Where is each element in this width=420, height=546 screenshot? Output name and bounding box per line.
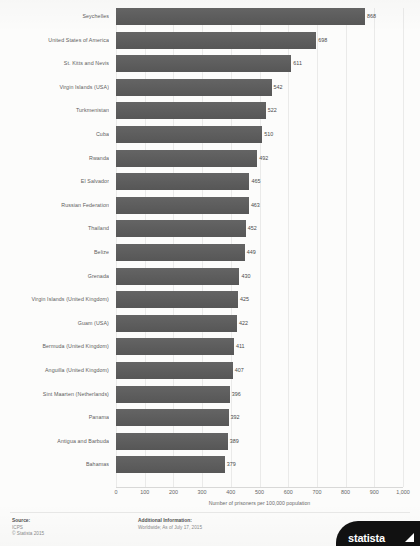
bar-category-label: Virgin Islands (United Kingdom) <box>0 291 109 308</box>
bar-category-label: Thailand <box>0 220 109 237</box>
bar-category-label: Bahamas <box>0 456 109 473</box>
bar-category-label: Belize <box>0 244 109 261</box>
statista-logo[interactable]: statista <box>336 521 420 546</box>
bar[interactable] <box>116 362 233 379</box>
bar-value-label: 379 <box>227 456 236 473</box>
bar[interactable] <box>116 126 262 143</box>
bar-category-label: St. Kitts and Nevis <box>0 55 109 72</box>
bar-value-label: 611 <box>293 55 302 72</box>
bar-category-label: Seychelles <box>0 8 109 25</box>
source-line-copyright: © Statista 2015 <box>12 531 44 536</box>
bar-row: Bermuda (United Kingdom)411 <box>0 338 420 355</box>
bar-row: Cuba510 <box>0 126 420 143</box>
bar-value-label: 449 <box>247 244 256 261</box>
bar-value-label: 425 <box>240 291 249 308</box>
bar-row: Anguilla (United Kingdom)407 <box>0 362 420 379</box>
bar-value-label: 542 <box>274 79 283 96</box>
footer-divider <box>10 512 410 513</box>
additional-information-line: Worldwide; As of July 17, 2015 <box>138 525 202 530</box>
bar[interactable] <box>116 102 266 119</box>
bar[interactable] <box>116 268 239 285</box>
bar-row: Bahamas379 <box>0 456 420 473</box>
bar-row: Turkmenistan522 <box>0 102 420 119</box>
bar-category-label: Turkmenistan <box>0 102 109 119</box>
bar-category-label: Virgin Islands (USA) <box>0 79 109 96</box>
x-axis-tick-label: 100 <box>140 489 149 495</box>
bar[interactable] <box>116 291 238 308</box>
bar-category-label: El Salvador <box>0 173 109 190</box>
bar-row: United States of America698 <box>0 32 420 49</box>
statista-logo-text: statista <box>348 532 385 544</box>
bar-value-label: 422 <box>239 315 248 332</box>
x-axis-tick-label: 700 <box>312 489 321 495</box>
bar[interactable] <box>116 79 272 96</box>
bar-value-label: 868 <box>367 8 376 25</box>
x-axis-tick-label: 800 <box>341 489 350 495</box>
x-axis-tick-label: 400 <box>226 489 235 495</box>
bar-value-label: 411 <box>236 338 245 355</box>
arrow-mark-icon <box>405 533 414 542</box>
bar-category-label: Guam (USA) <box>0 315 109 332</box>
bar-row: Virgin Islands (United Kingdom)425 <box>0 291 420 308</box>
source-line-organization: ICPS <box>12 525 44 530</box>
bar[interactable] <box>116 150 257 167</box>
bar[interactable] <box>116 315 237 332</box>
bar-category-label: Anguilla (United Kingdom) <box>0 362 109 379</box>
bar[interactable] <box>116 173 249 190</box>
bar-row: Thailand452 <box>0 220 420 237</box>
source-block: Source: ICPS © Statista 2015 <box>12 518 44 536</box>
bar[interactable] <box>116 456 225 473</box>
x-axis-tick-label: 500 <box>255 489 264 495</box>
bar-category-label: Bermuda (United Kingdom) <box>0 338 109 355</box>
bar[interactable] <box>116 386 230 403</box>
bar[interactable] <box>116 433 228 450</box>
source-heading: Source: <box>12 518 44 523</box>
bar-value-label: 492 <box>259 150 268 167</box>
bar-value-label: 465 <box>251 173 260 190</box>
bar-row: Guam (USA)422 <box>0 315 420 332</box>
bar-value-label: 452 <box>248 220 257 237</box>
x-axis-tick-label: 300 <box>198 489 207 495</box>
bar-row: Grenada430 <box>0 268 420 285</box>
bar-value-label: 392 <box>231 409 240 426</box>
bar-category-label: Sint Maarten (Netherlands) <box>0 386 109 403</box>
x-axis: 01002003004005006007008009001,000 <box>0 487 420 501</box>
bar[interactable] <box>116 32 316 49</box>
bar-row: Seychelles868 <box>0 8 420 25</box>
bar-value-label: 407 <box>235 362 244 379</box>
bar-row: Russian Federation463 <box>0 197 420 214</box>
x-axis-tick-label: 200 <box>169 489 178 495</box>
bar-value-label: 522 <box>268 102 277 119</box>
bar[interactable] <box>116 197 249 214</box>
additional-information-heading: Additional Information: <box>138 518 202 523</box>
bar-value-label: 396 <box>232 386 241 403</box>
x-axis-tick-label: 0 <box>115 489 118 495</box>
bar-row: St. Kitts and Nevis611 <box>0 55 420 72</box>
bar-row: Panama392 <box>0 409 420 426</box>
x-axis-line <box>116 487 403 488</box>
bar[interactable] <box>116 244 245 261</box>
bar-value-label: 510 <box>264 126 273 143</box>
bar-value-label: 389 <box>230 433 239 450</box>
additional-information-block: Additional Information: Worldwide; As of… <box>138 518 202 530</box>
bar[interactable] <box>116 55 291 72</box>
bar-value-label: 463 <box>251 197 260 214</box>
bar-row: Antigua and Barbuda389 <box>0 433 420 450</box>
bar[interactable] <box>116 220 246 237</box>
bar-row: El Salvador465 <box>0 173 420 190</box>
chart-title-cropped <box>0 0 420 8</box>
bar-row: Belize449 <box>0 244 420 261</box>
bar-category-label: Antigua and Barbuda <box>0 433 109 450</box>
bar-category-label: Cuba <box>0 126 109 143</box>
bar-value-label: 698 <box>318 32 327 49</box>
bar-row: Sint Maarten (Netherlands)396 <box>0 386 420 403</box>
bar[interactable] <box>116 409 229 426</box>
x-axis-tick-label: 600 <box>284 489 293 495</box>
bar-category-label: Grenada <box>0 268 109 285</box>
chart-page: Seychelles868United States of America698… <box>0 0 420 546</box>
bar[interactable] <box>116 8 365 25</box>
bar-category-label: Rwanda <box>0 150 109 167</box>
bar-value-label: 430 <box>241 268 250 285</box>
bar[interactable] <box>116 338 234 355</box>
x-axis-title: Number of prisoners per 100,000 populati… <box>116 500 403 506</box>
